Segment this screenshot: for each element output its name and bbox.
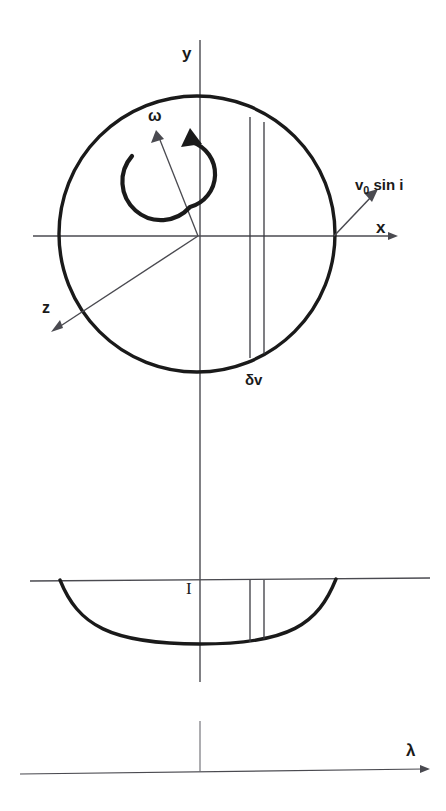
z-axis-label: z [42, 300, 50, 316]
intensity-axis-label: I [186, 580, 192, 597]
continuum-line [30, 578, 430, 581]
x-axis-arrowhead [388, 232, 398, 240]
omega-label: ω [148, 108, 162, 124]
v0-sin-i-label: v0 sin i [355, 177, 404, 196]
z-axis-line [59, 236, 198, 327]
y-axis-label: y [182, 45, 191, 62]
omega-axis-arrowhead [151, 130, 164, 143]
lambda-axis-line [20, 769, 424, 774]
lambda-axis-label: λ [406, 742, 415, 759]
z-axis-arrowhead [51, 320, 63, 332]
rotation-curve-arrow [122, 142, 215, 220]
x-axis-label: x [376, 219, 385, 236]
delta-v-label: δv [245, 372, 262, 387]
rotational-broadening-figure [0, 0, 446, 811]
absorption-profile-curve [60, 579, 336, 644]
rotation-arrowhead [181, 128, 202, 147]
lambda-axis-arrowhead [420, 765, 430, 773]
v0-sin-i-suffix: sin i [369, 176, 403, 193]
v0sini-vector-line [334, 196, 372, 236]
